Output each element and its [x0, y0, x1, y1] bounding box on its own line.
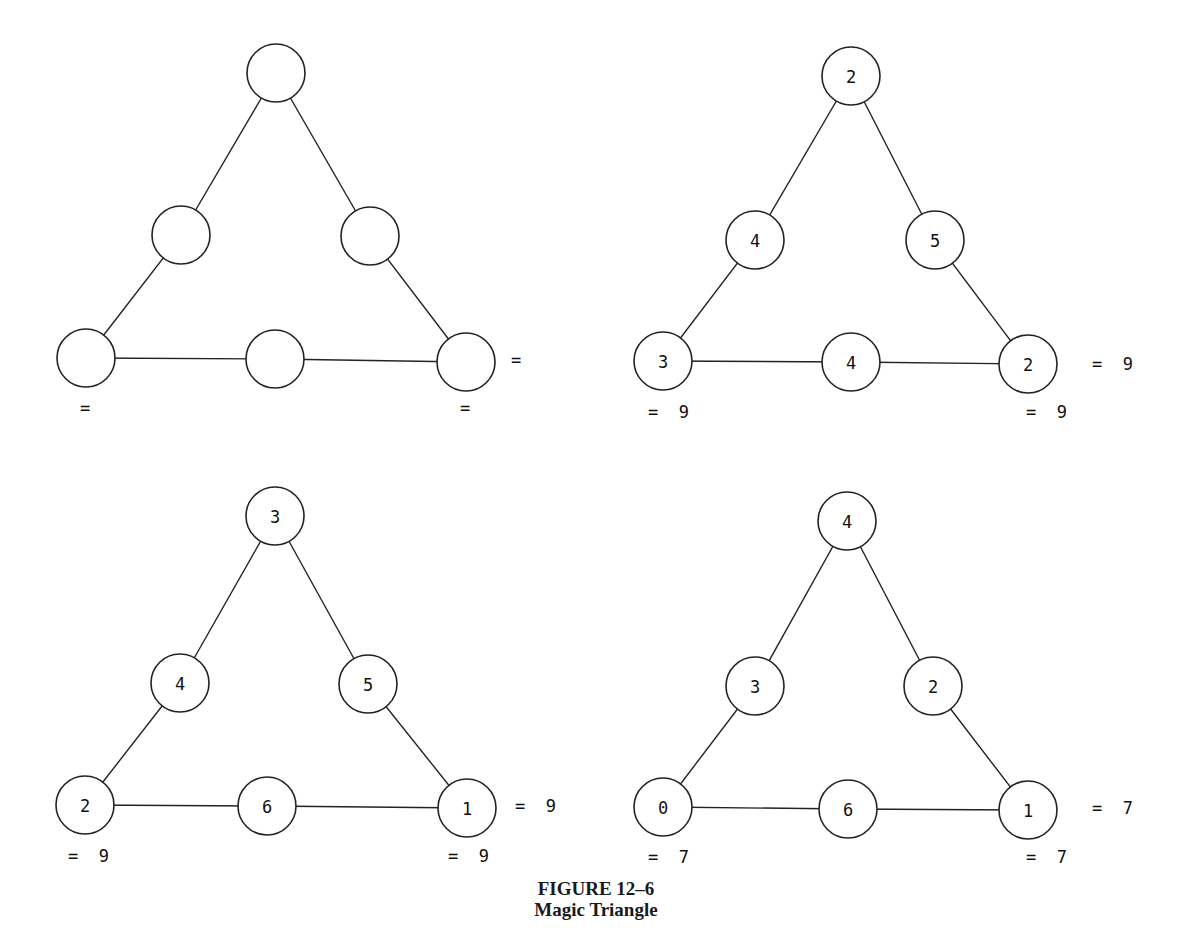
node-value: 2 [928, 677, 938, 697]
magic-triangle-figure: ===245342= 9= 9= 9345261= 9= 9= 9432061=… [0, 0, 1192, 944]
node-value: 4 [175, 674, 185, 694]
node-value: 6 [262, 797, 272, 817]
side-sum-left: = 7 [648, 847, 689, 867]
node-circle [152, 206, 210, 264]
node-value: 5 [363, 675, 373, 695]
node-circle [341, 207, 399, 265]
node-bottom-left: 2 [56, 776, 114, 834]
node-mid-right: 5 [906, 211, 964, 269]
side-sum-bottom: = 9 [448, 846, 489, 866]
node-value: 4 [842, 512, 852, 532]
magic-triangle-blank: === [57, 44, 521, 418]
side-sum-right: = [511, 350, 521, 370]
node-mid-left: 4 [726, 211, 784, 269]
node-bottom-left: 3 [634, 332, 692, 390]
edge-bottom-mid-to-bottom-right [267, 806, 467, 808]
node-value: 2 [846, 67, 856, 87]
figure-title: Magic Triangle [0, 899, 1192, 921]
node-value: 1 [1023, 801, 1033, 821]
node-circle [57, 329, 115, 387]
side-sum-left: = [80, 398, 90, 418]
node-top: 2 [822, 47, 880, 105]
node-bottom-right: 1 [999, 781, 1057, 839]
node-value: 4 [750, 231, 760, 251]
node-bottom-mid: 6 [238, 777, 296, 835]
node-bottom-mid: 4 [822, 333, 880, 391]
node-bottom-right: 2 [999, 335, 1057, 393]
node-value: 3 [270, 507, 280, 527]
node-value: 2 [80, 796, 90, 816]
node-value: 5 [930, 231, 940, 251]
side-sum-right: = 9 [515, 796, 556, 816]
node-top: 4 [818, 492, 876, 550]
node-mid-right: 5 [339, 655, 397, 713]
node-bottom-right [437, 333, 495, 391]
side-sum-right: = 7 [1092, 798, 1133, 818]
node-mid-right [341, 207, 399, 265]
node-top [247, 44, 305, 102]
node-bottom-mid [246, 330, 304, 388]
node-circle [247, 44, 305, 102]
side-sum-right: = 9 [1092, 354, 1133, 374]
side-sum-left: = 9 [648, 402, 689, 422]
side-sum-bottom: = 7 [1026, 847, 1067, 867]
node-top: 3 [246, 487, 304, 545]
side-sum-bottom: = [460, 398, 470, 418]
node-bottom-left [57, 329, 115, 387]
side-sum-bottom: = 9 [1026, 402, 1067, 422]
figure-label: FIGURE 12–6 [0, 878, 1192, 900]
node-bottom-right: 1 [438, 779, 496, 837]
node-mid-left: 3 [726, 657, 784, 715]
node-mid-left: 4 [151, 654, 209, 712]
node-circle [437, 333, 495, 391]
side-sum-left: = 9 [68, 846, 109, 866]
magic-triangle-solution-9b: 345261= 9= 9= 9 [56, 487, 556, 866]
magic-triangle-solution-7: 432061= 7= 7= 7 [634, 492, 1133, 867]
node-mid-right: 2 [904, 657, 962, 715]
node-circle [246, 330, 304, 388]
magic-triangle-solution-9a: 245342= 9= 9= 9 [634, 47, 1133, 422]
node-value: 0 [658, 798, 668, 818]
node-bottom-left: 0 [634, 778, 692, 836]
node-value: 2 [1023, 355, 1033, 375]
node-bottom-mid: 6 [819, 780, 877, 838]
node-value: 1 [462, 799, 472, 819]
node-value: 3 [658, 352, 668, 372]
node-value: 6 [843, 800, 853, 820]
node-value: 4 [846, 353, 856, 373]
node-value: 3 [750, 677, 760, 697]
node-mid-left [152, 206, 210, 264]
